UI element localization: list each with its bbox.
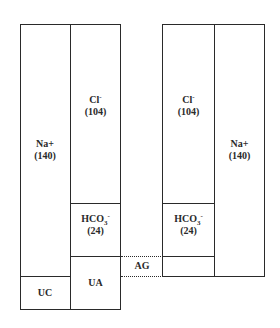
right-bicarbonate-name: HCO bbox=[174, 213, 197, 224]
right-sodium-label: Na+ (140) bbox=[214, 138, 265, 162]
left-uc-label: UC bbox=[20, 287, 70, 299]
left-outer-frame bbox=[20, 24, 121, 310]
left-ua-label: UA bbox=[70, 277, 121, 289]
anion-gap-label: AG bbox=[121, 260, 163, 272]
left-bicarbonate-value: (24) bbox=[70, 225, 121, 237]
anion-gap-name: AG bbox=[135, 260, 150, 271]
right-bicarbonate-label: HCO3- (24) bbox=[163, 213, 214, 237]
right-chloride-name: Cl bbox=[182, 94, 192, 105]
left-sodium-value: (140) bbox=[20, 150, 70, 162]
left-bicarbonate-name: HCO bbox=[81, 213, 104, 224]
left-hco3-top-line bbox=[70, 203, 121, 204]
right-anion-frame bbox=[162, 24, 215, 277]
right-ag-top-line bbox=[162, 256, 214, 257]
right-chloride-charge: - bbox=[192, 93, 194, 101]
left-chloride-value: (104) bbox=[70, 106, 121, 118]
left-sodium-label: Na+ (140) bbox=[20, 138, 70, 162]
right-hco3-top-line bbox=[162, 203, 214, 204]
right-sodium-value: (140) bbox=[214, 150, 265, 162]
left-ua-top-line bbox=[70, 256, 121, 257]
gap-bottom-dotted-line bbox=[121, 276, 163, 277]
right-bicarbonate-charge: - bbox=[200, 212, 202, 220]
gap-top-dotted-line bbox=[121, 256, 163, 257]
left-chloride-name: Cl bbox=[89, 94, 99, 105]
right-chloride-value: (104) bbox=[163, 106, 214, 118]
left-bicarbonate-label: HCO3- (24) bbox=[70, 213, 121, 237]
left-uc-name: UC bbox=[38, 287, 52, 298]
right-sodium-name: Na+ bbox=[214, 138, 265, 150]
right-bicarbonate-value: (24) bbox=[163, 225, 214, 237]
left-divider bbox=[70, 24, 71, 310]
left-chloride-label: Cl- (104) bbox=[70, 94, 121, 118]
left-uc-top-line bbox=[20, 276, 70, 277]
right-bicarbonate-subscript: 3 bbox=[197, 219, 201, 227]
left-bicarbonate-charge: - bbox=[107, 212, 109, 220]
left-sodium-name: Na+ bbox=[20, 138, 70, 150]
right-chloride-label: Cl- (104) bbox=[163, 94, 214, 118]
left-chloride-charge: - bbox=[99, 93, 101, 101]
left-ua-name: UA bbox=[88, 277, 102, 288]
left-bicarbonate-subscript: 3 bbox=[104, 219, 108, 227]
